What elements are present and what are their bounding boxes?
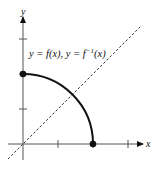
chart-canvas: x y y = f(x), y = f−1(x)	[0, 0, 153, 172]
curve-annotation: y = f(x), y = f−1(x)	[28, 47, 106, 60]
x-axis-label: x	[145, 138, 151, 149]
endpoint-right	[90, 141, 97, 148]
identity-line	[8, 26, 141, 159]
curve-label-superscript: −1	[86, 47, 94, 55]
y-axis-label: y	[20, 6, 26, 17]
endpoint-top	[20, 71, 27, 78]
curve-label-suffix: (x)	[94, 48, 106, 60]
curve-label-prefix: y = f(x), y = f	[28, 48, 88, 60]
